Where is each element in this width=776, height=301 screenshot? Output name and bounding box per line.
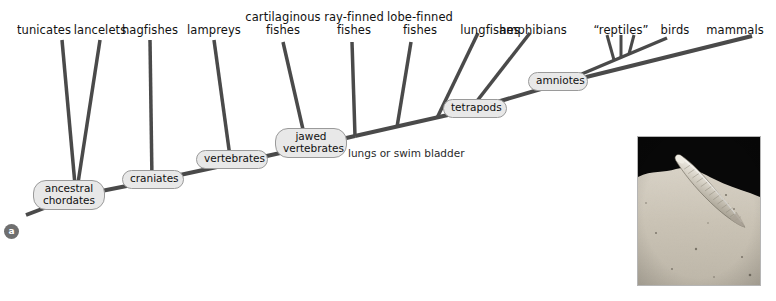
taxon-line: fishes: [320, 24, 388, 37]
node-tetrapods[interactable]: tetrapods: [443, 99, 507, 118]
branch-tunicates: [62, 40, 76, 196]
taxon-line: lobe-finned: [383, 11, 457, 24]
taxon-label-cartilaginous-fishes: cartilaginous fishes: [241, 11, 325, 36]
taxon-line: fishes: [241, 24, 325, 37]
node-line: vertebrates: [283, 143, 339, 155]
taxon-line: hagfishes: [117, 24, 183, 37]
taxon-line: amphibians: [496, 24, 570, 37]
taxon-line: “reptiles”: [589, 24, 653, 37]
phylogenetic-tree-figure: tunicates lancelets hagfishes lampreys c…: [0, 0, 776, 301]
branch-reptiles-twig-1: [607, 35, 614, 60]
node-line: tetrapods: [451, 102, 499, 114]
taxon-line: fishes: [383, 24, 457, 37]
taxon-label-lobe-finned-fishes: lobe-finned fishes: [383, 11, 457, 36]
node-line: chordates: [41, 195, 97, 207]
lancelet-photo-graphic: [638, 137, 760, 285]
branch-lancelets: [76, 40, 100, 196]
taxon-label-mammals: mammals: [701, 24, 769, 37]
taxon-label-reptiles: “reptiles”: [589, 24, 653, 37]
branch-ray-finned-fishes: [352, 42, 355, 136]
panel-label-badge: a: [4, 224, 19, 239]
taxon-line: lampreys: [182, 24, 246, 37]
node-line: ancestral: [41, 183, 97, 195]
taxon-line: ray-finned: [320, 11, 388, 24]
taxon-label-amphibians: amphibians: [496, 24, 570, 37]
taxon-line: mammals: [701, 24, 769, 37]
lancelet-inset-photo: [637, 136, 761, 286]
node-line: amniotes: [536, 75, 580, 87]
node-amniotes[interactable]: amniotes: [528, 72, 588, 91]
taxon-label-hagfishes: hagfishes: [117, 24, 183, 37]
node-line: vertebrates: [204, 153, 260, 165]
node-craniates[interactable]: craniates: [122, 170, 184, 189]
taxon-line: birds: [653, 24, 697, 37]
annotation-lungs-or-swim-bladder: lungs or swim bladder: [348, 147, 464, 159]
taxon-label-ray-finned-fishes: ray-finned fishes: [320, 11, 388, 36]
node-line: craniates: [130, 173, 176, 185]
taxon-line: cartilaginous: [241, 11, 325, 24]
taxon-label-lampreys: lampreys: [182, 24, 246, 37]
branch-hagfishes: [150, 40, 152, 181]
node-vertebrates[interactable]: vertebrates: [196, 150, 268, 169]
branch-lampreys: [214, 40, 231, 164]
node-ancestral-chordates[interactable]: ancestral chordates: [33, 180, 105, 210]
branch-lobe-finned-fishes: [397, 42, 411, 127]
node-jawed-vertebrates[interactable]: jawed vertebrates: [275, 128, 347, 158]
taxon-label-birds: birds: [653, 24, 697, 37]
node-line: jawed: [283, 131, 339, 143]
